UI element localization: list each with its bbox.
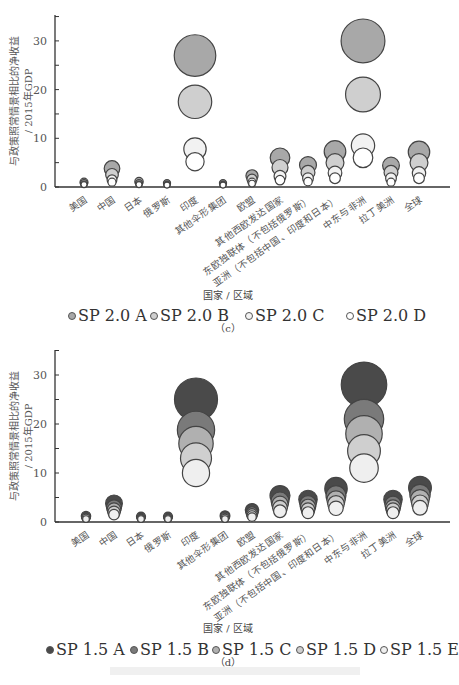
x-tick-label: 美国	[68, 529, 91, 549]
legend-swatch-icon	[380, 646, 388, 654]
bubble	[138, 516, 145, 523]
x-tick-label: 美国	[66, 194, 89, 214]
legend-swatch-icon	[150, 312, 158, 320]
legend-swatch-icon	[296, 646, 304, 654]
y-tick-label: 30	[33, 369, 47, 382]
figure-caption-faded	[110, 667, 360, 675]
bubble	[136, 182, 142, 188]
bubble	[341, 19, 385, 63]
legend-swatch-icon	[130, 646, 138, 654]
bubble	[220, 182, 226, 188]
legend-swatch-icon	[212, 646, 220, 654]
panel-d: 0102030与政策照常情景相比的净收益/ 2015年GDP美国中国日本俄罗斯印…	[0, 340, 456, 685]
x-tick-label: 俄罗斯	[141, 194, 172, 220]
y-tick-label: 30	[33, 35, 47, 48]
bubble	[109, 509, 120, 520]
bubble	[274, 505, 287, 518]
y-tick-label: 10	[33, 132, 47, 145]
bubble	[178, 85, 211, 118]
y-tick-label: 0	[40, 516, 47, 529]
bubble	[182, 459, 209, 486]
y-axis-title: 与政策照常情景相比的净收益/ 2015年GDP	[8, 371, 34, 501]
x-tick-label: 中国	[96, 529, 119, 549]
x-tick-label: 其他伞形集团	[175, 529, 230, 572]
x-tick-label: 俄罗斯	[142, 529, 173, 555]
bubble	[346, 77, 381, 112]
bubble	[413, 500, 428, 515]
bubble	[329, 501, 343, 515]
bubble	[248, 513, 257, 522]
bubble	[387, 507, 399, 519]
legend-swatch-icon	[68, 312, 76, 320]
svg-text:与政策照常情景相比的净收益: 与政策照常情景相比的净收益	[8, 36, 20, 166]
svg-text:与政策照常情景相比的净收益: 与政策照常情景相比的净收益	[8, 371, 20, 501]
y-tick-label: 0	[40, 181, 47, 194]
bubble	[249, 180, 256, 187]
bubble	[81, 182, 87, 188]
bubble	[222, 516, 229, 523]
svg-text:/ 2015年GDP: / 2015年GDP	[22, 68, 34, 133]
legend-swatch-icon	[46, 646, 54, 654]
legend-swatch-icon	[346, 312, 354, 320]
x-tick-label: 全球	[401, 194, 424, 214]
bubble	[350, 454, 379, 483]
bubble	[164, 182, 170, 188]
bubble	[304, 177, 312, 185]
legend-swatch-icon	[245, 312, 253, 320]
x-tick-label: 其他伞形集团	[173, 194, 228, 237]
bubble	[275, 175, 284, 184]
x-tick-label: 全球	[402, 529, 425, 549]
y-axis-title: 与政策照常情景相比的净收益/ 2015年GDP	[8, 36, 34, 166]
bubble	[83, 516, 90, 523]
y-tick-label: 20	[33, 84, 47, 97]
y-tick-label: 10	[33, 467, 47, 480]
bubble	[387, 178, 395, 186]
bubble	[302, 507, 314, 519]
bubble	[165, 516, 172, 523]
bubble	[330, 173, 341, 184]
panel-label-c: （c）	[0, 320, 456, 335]
bubble	[414, 173, 425, 184]
bubble	[174, 35, 216, 77]
bubble	[108, 178, 116, 186]
bubble	[186, 153, 204, 171]
x-tick-label: 中国	[94, 194, 117, 214]
y-tick-label: 20	[33, 418, 47, 431]
svg-text:/ 2015年GDP: / 2015年GDP	[22, 403, 34, 468]
bubble	[353, 148, 373, 168]
x-axis-title-d: 国家 / 区域	[0, 620, 456, 635]
panel-c: 0102030与政策照常情景相比的净收益/ 2015年GDP美国中国日本俄罗斯印…	[0, 0, 456, 340]
x-axis-title-c: 国家 / 区域	[0, 287, 456, 302]
